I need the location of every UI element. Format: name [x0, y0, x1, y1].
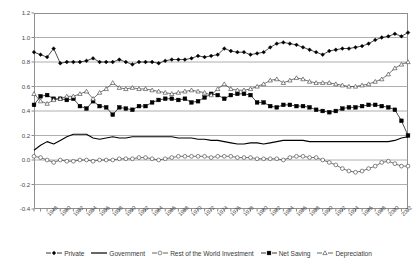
data-point	[373, 103, 377, 107]
data-point	[196, 154, 200, 158]
data-point	[301, 104, 305, 108]
data-point	[71, 60, 75, 64]
data-point	[360, 169, 364, 173]
data-point	[380, 161, 384, 165]
legend-key-filled-diamond	[46, 249, 62, 257]
legend-marker	[323, 251, 327, 255]
data-point	[393, 32, 397, 36]
data-point	[347, 47, 351, 51]
data-point	[170, 58, 174, 62]
data-point	[242, 156, 246, 160]
data-point	[196, 54, 200, 58]
data-point	[32, 103, 36, 107]
data-point	[268, 157, 272, 161]
series-line	[34, 156, 408, 172]
data-point	[104, 60, 108, 64]
data-point	[216, 154, 220, 158]
data-point	[209, 54, 213, 58]
data-point	[327, 161, 331, 165]
data-point	[124, 107, 128, 111]
legend-key-open-triangle	[317, 249, 333, 257]
data-point	[393, 66, 397, 70]
series-line	[34, 94, 408, 136]
data-point	[360, 44, 364, 48]
data-point	[294, 76, 298, 80]
data-point	[222, 82, 226, 86]
data-point	[150, 60, 154, 64]
legend-item-rest-of-the-world-investment[interactable]: Rest of the World Investment	[152, 249, 254, 257]
data-point	[222, 154, 226, 158]
data-point	[400, 164, 404, 168]
data-point	[321, 158, 325, 162]
data-point	[124, 60, 128, 64]
data-point	[71, 159, 75, 163]
legend-label: Government	[109, 250, 145, 257]
legend-item-private[interactable]: Private	[46, 249, 84, 257]
data-point	[236, 50, 240, 54]
data-point	[321, 53, 325, 57]
data-point	[295, 154, 299, 158]
y-axis-tick-label: 0.8	[2, 58, 30, 65]
legend-marker	[52, 251, 56, 255]
data-point	[354, 170, 358, 174]
data-point	[340, 47, 344, 51]
series-line	[34, 62, 408, 104]
data-point	[281, 158, 285, 162]
data-point	[183, 58, 187, 62]
data-point	[170, 156, 174, 160]
data-point	[111, 158, 115, 162]
legend-key-open-circle	[152, 249, 168, 257]
data-point	[45, 93, 49, 97]
legend-item-government[interactable]: Government	[91, 249, 145, 257]
y-axis-tick-label: 0.2	[2, 132, 30, 139]
data-point	[111, 113, 115, 117]
data-point	[249, 53, 253, 57]
data-point	[78, 104, 82, 108]
data-point	[347, 105, 351, 109]
data-point	[216, 87, 220, 91]
data-point	[367, 42, 371, 46]
data-point	[58, 158, 62, 162]
data-point	[85, 158, 89, 162]
data-point	[144, 60, 148, 64]
data-point	[288, 42, 292, 46]
data-point	[144, 156, 148, 160]
legend-marker	[158, 251, 162, 255]
legend-item-depreciation[interactable]: Depreciation	[317, 249, 371, 257]
data-point	[301, 45, 305, 49]
data-point	[295, 43, 299, 47]
y-axis-tick-label: 0.6	[2, 83, 30, 90]
data-point	[78, 60, 82, 64]
data-point	[354, 105, 358, 109]
chart-legend: PrivateGovernmentRest of the World Inves…	[0, 249, 418, 257]
data-point	[406, 31, 410, 35]
data-point	[163, 97, 167, 101]
data-point	[170, 97, 174, 101]
data-point	[308, 156, 312, 160]
data-point	[386, 159, 390, 163]
data-point	[275, 42, 279, 46]
data-point	[249, 156, 253, 160]
data-point	[98, 60, 102, 64]
data-point	[137, 60, 141, 64]
data-point	[117, 58, 121, 62]
data-point	[104, 105, 108, 109]
data-point	[144, 104, 148, 108]
data-point	[104, 158, 108, 162]
y-axis-tick-label: 1.2	[2, 9, 30, 16]
legend-item-net-saving[interactable]: Net Saving	[261, 249, 311, 257]
data-point	[314, 108, 318, 112]
data-point	[236, 92, 240, 96]
data-point	[255, 52, 259, 56]
legend-marker	[267, 251, 271, 255]
legend-label: Net Saving	[279, 250, 311, 257]
data-point	[308, 48, 312, 52]
data-point	[334, 109, 338, 113]
data-point	[327, 49, 331, 53]
data-point	[189, 88, 193, 92]
legend-key-filled-square	[261, 249, 277, 257]
data-point	[367, 167, 371, 171]
data-point	[314, 156, 318, 160]
data-point	[32, 92, 36, 96]
series-net-saving	[32, 92, 410, 137]
